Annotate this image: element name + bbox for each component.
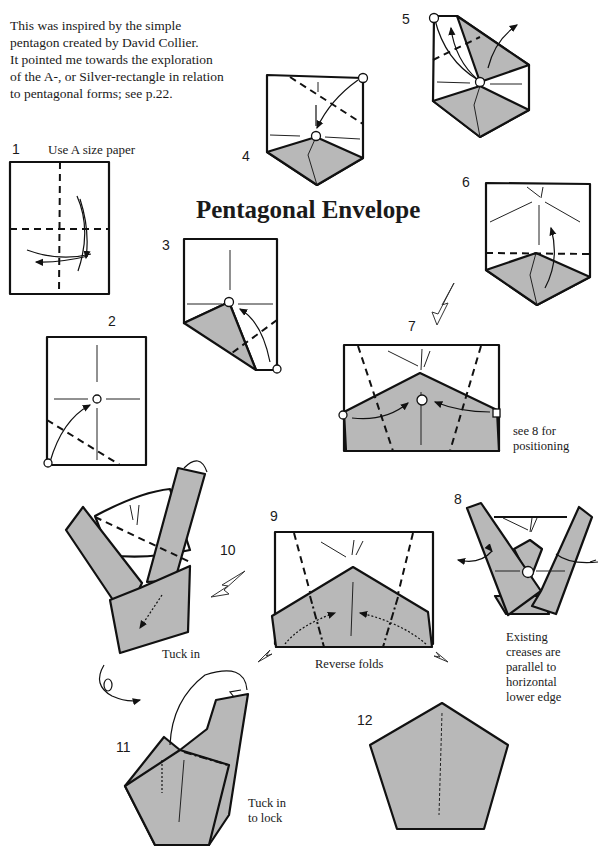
step-8-diagram bbox=[458, 503, 598, 615]
step-12-diagram bbox=[370, 703, 508, 829]
step-2-diagram bbox=[44, 337, 146, 467]
step-7-diagram bbox=[339, 345, 500, 451]
step-1-diagram bbox=[10, 162, 109, 294]
step-3-diagram bbox=[184, 239, 281, 373]
rotate-icon bbox=[100, 665, 141, 701]
step-10-diagram bbox=[66, 461, 245, 653]
step-6-diagram bbox=[486, 183, 590, 305]
hollow-arrow-icon bbox=[432, 283, 454, 325]
step-5-diagram bbox=[430, 14, 530, 138]
step-4-diagram bbox=[267, 74, 368, 186]
diagrams bbox=[0, 0, 604, 846]
step-11-diagram bbox=[125, 671, 248, 845]
step-9-diagram bbox=[258, 532, 448, 662]
